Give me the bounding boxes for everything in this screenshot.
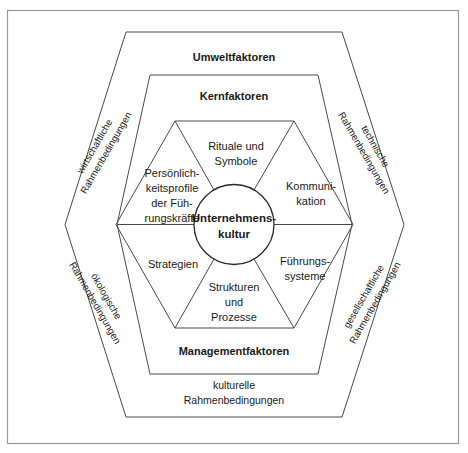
segment-strukturen-prozesse-line1: Strukturen [209, 281, 260, 293]
label-wirtschaftliche-rahmenbedingungen: wirtschaftliche Rahmenbedingungen [67, 103, 134, 195]
segment-rituale-symbole-line1: Rituale und [208, 140, 264, 152]
core-circle-unternehmenskultur [194, 185, 274, 265]
label-umweltfaktoren: Umweltfaktoren [193, 51, 276, 63]
segment-rituale-symbole-line2: Symbole [215, 155, 258, 167]
label-kulturelle-rahmenbedingungen-line2: Rahmenbedingungen [184, 394, 285, 406]
hexagon-diagram-svg: Umweltfaktoren kulturelle Rahmenbedingun… [0, 0, 468, 453]
segment-kommunikation-line2: kation [296, 195, 325, 207]
segment-strategien: Strategien [148, 258, 198, 270]
label-kulturelle-rahmenbedingungen-line1: kulturelle [213, 379, 255, 391]
diagram-root: Umweltfaktoren kulturelle Rahmenbedingun… [0, 0, 468, 453]
segment-persoenlichkeitsprofile-line1: Persönlich- [144, 167, 199, 179]
core-label-line2: kultur [218, 228, 250, 240]
segment-persoenlichkeitsprofile-line2: keitsprofile [146, 182, 199, 194]
segment-strukturen-prozesse-line3: Prozesse [211, 311, 257, 323]
segment-persoenlichkeitsprofile-line3: der Füh- [151, 197, 193, 209]
segment-fuehrungssysteme-line2: systeme [285, 270, 326, 282]
segment-strukturen-prozesse-line2: und [225, 296, 243, 308]
label-kernfaktoren: Kernfaktoren [200, 90, 269, 102]
segment-fuehrungssysteme-line1: Führungs- [280, 255, 330, 267]
label-oekologische-rahmenbedingungen: ökologische Rahmenbedingungen [67, 253, 134, 345]
segment-kommunikation-line1: Kommuni- [286, 180, 336, 192]
core-label-line1: Unternehmens- [192, 212, 277, 224]
label-managementfaktoren: Managementfaktoren [179, 345, 290, 357]
spoke-upper-left [175, 121, 214, 190]
